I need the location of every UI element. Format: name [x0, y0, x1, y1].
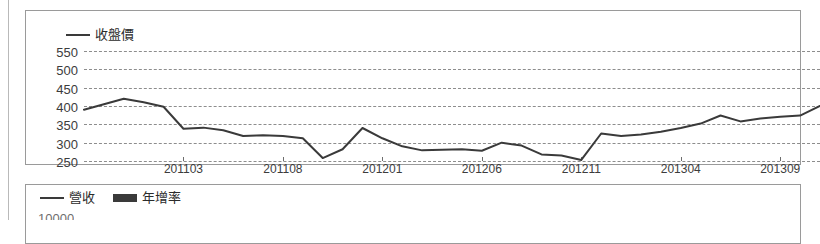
x-axis-tick-label: 201211	[562, 163, 601, 175]
line-swatch-icon	[40, 197, 64, 199]
legend-label-yoy-growth: 年增率	[142, 191, 181, 204]
page-gutter-rule	[8, 0, 9, 220]
y-axis-tick-label: 450	[56, 82, 78, 95]
y-axis-tick-label: 400	[56, 101, 78, 114]
y-axis-tick-label: 550	[56, 46, 78, 59]
revenue-chart-legend: 營收 年增率	[40, 191, 199, 204]
x-axis-tick-label: 201304	[661, 163, 701, 175]
y-axis-tick-label: 300	[56, 137, 78, 150]
close-price-polyline	[84, 99, 820, 160]
line-swatch-icon	[66, 34, 90, 36]
x-axis-tick-label: 201206	[462, 163, 502, 175]
x-axis-tick-label: 201201	[362, 163, 402, 175]
x-axis-tick-label: 201103	[164, 163, 203, 175]
legend-label-revenue: 營收	[69, 191, 95, 204]
legend-item-yoy-growth: 年增率	[113, 191, 181, 204]
y-axis-tick-label: 350	[56, 119, 78, 132]
y-axis-tick-label: 500	[56, 64, 78, 77]
revenue-axis-label-clipped: 10000	[38, 212, 74, 220]
legend-label-close-price: 收盤價	[95, 28, 134, 41]
y-axis-tick-label: 250	[56, 156, 78, 169]
price-chart-panel: 收盤價 550500450400350300250 20110320110820…	[25, 10, 801, 165]
legend-item-close-price: 收盤價	[66, 28, 134, 41]
legend-item-revenue: 營收	[40, 191, 95, 204]
price-plot-area: 550500450400350300250 201103201108201201…	[84, 51, 820, 161]
bar-swatch-icon	[113, 194, 137, 202]
price-chart-legend: 收盤價	[66, 28, 152, 41]
close-price-line-series	[84, 51, 820, 161]
x-axis-tick-label: 201108	[263, 163, 302, 175]
x-axis-tick-label: 201309	[760, 163, 800, 175]
